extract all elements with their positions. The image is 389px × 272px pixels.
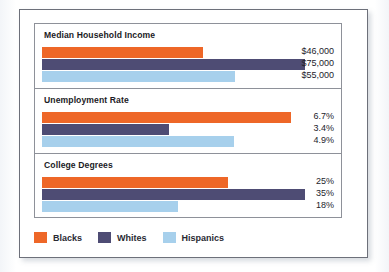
legend-item-blacks: Blacks <box>34 232 82 243</box>
page-edge-shading-right <box>373 0 389 272</box>
legend-swatch-hispanics-icon <box>163 232 176 243</box>
bar-unemployment-whites <box>42 124 169 135</box>
value-unemployment-hispanics: 4.9% <box>272 134 334 146</box>
chart-legend: Blacks Whites Hispanics <box>34 232 240 243</box>
legend-label-blacks: Blacks <box>53 233 82 243</box>
bar-income-blacks <box>42 47 203 58</box>
figure-frame: Median Household Income $46,000 $75,000 … <box>19 9 368 258</box>
value-income-hispanics: $55,000 <box>272 69 334 81</box>
page-edge-shading-left <box>0 0 19 272</box>
bar-income-hispanics <box>42 71 235 82</box>
legend-item-hispanics: Hispanics <box>163 232 225 243</box>
chart-group-unemployment-rate: Unemployment Rate 6.7% 3.4% 4.9% <box>35 89 341 154</box>
bar-income-whites <box>42 59 305 70</box>
legend-item-whites: Whites <box>98 232 147 243</box>
value-unemployment-whites: 3.4% <box>272 122 334 134</box>
value-college-hispanics: 18% <box>272 199 334 211</box>
chart-group-median-household-income: Median Household Income $46,000 $75,000 … <box>35 24 341 89</box>
group-title-unemployment-rate: Unemployment Rate <box>44 95 129 105</box>
bar-college-whites <box>42 189 305 200</box>
bar-college-blacks <box>42 177 228 188</box>
value-labels-unemployment-rate: 6.7% 3.4% 4.9% <box>272 110 334 147</box>
value-income-blacks: $46,000 <box>272 45 334 57</box>
chart-panel: Median Household Income $46,000 $75,000 … <box>34 23 342 218</box>
value-college-blacks: 25% <box>272 175 334 187</box>
legend-label-whites: Whites <box>117 233 147 243</box>
legend-swatch-blacks-icon <box>34 232 47 243</box>
value-college-whites: 35% <box>272 187 334 199</box>
bar-unemployment-blacks <box>42 112 291 123</box>
legend-label-hispanics: Hispanics <box>182 233 225 243</box>
legend-swatch-whites-icon <box>98 232 111 243</box>
value-labels-median-household-income: $46,000 $75,000 $55,000 <box>272 45 334 82</box>
value-unemployment-blacks: 6.7% <box>272 110 334 122</box>
group-title-median-household-income: Median Household Income <box>44 30 155 40</box>
value-labels-college-degrees: 25% 35% 18% <box>272 175 334 212</box>
value-income-whites: $75,000 <box>272 57 334 69</box>
group-title-college-degrees: College Degrees <box>44 160 113 170</box>
bar-unemployment-hispanics <box>42 136 234 147</box>
bar-college-hispanics <box>42 201 178 212</box>
chart-group-college-degrees: College Degrees 25% 35% 18% <box>35 154 341 219</box>
